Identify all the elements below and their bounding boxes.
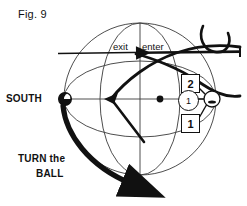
figure-canvas: Fig. 9 exit enter SOUTH TURN the BALL 2 … [0, 0, 247, 206]
trajectory-lower-curve [111, 46, 240, 99]
connector-box1 [199, 104, 207, 118]
circle-marker-1: 1 [178, 90, 199, 111]
step-box-1: 1 [181, 114, 200, 133]
figure-caption: Fig. 9 [18, 8, 47, 20]
hook-curve [201, 26, 229, 52]
south-label: SOUTH [6, 93, 42, 104]
right-small-circle [204, 91, 220, 107]
enter-label: enter [142, 41, 164, 52]
center-arrow-marker [104, 93, 118, 104]
turn-ball-label-line1: TURN the [18, 153, 65, 164]
exit-label: exit [113, 41, 128, 52]
mid-dot-marker [157, 96, 164, 103]
turn-ball-label-line2: BALL [36, 168, 63, 179]
ball-south-marker [59, 93, 72, 106]
